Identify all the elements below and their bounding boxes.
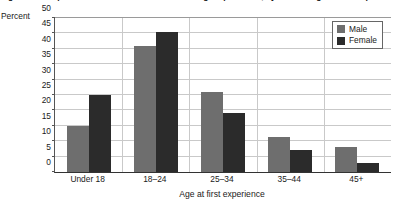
y-axis-tick-label: 45 <box>42 18 51 28</box>
legend-label: Male <box>349 25 367 33</box>
y-axis-tick-label: 30 <box>42 65 51 75</box>
x-axis-tick-label: Under 18 <box>54 174 121 184</box>
y-axis-tick-mark <box>52 48 55 49</box>
x-axis-tick-label: 35–44 <box>256 174 323 184</box>
bar-chart: Age at first experience of sexual interc… <box>0 0 402 203</box>
legend-swatch-icon <box>337 25 345 33</box>
y-axis-tick-mark <box>52 171 55 172</box>
y-axis-tick-mark <box>52 140 55 141</box>
legend: MaleFemale <box>332 21 383 49</box>
y-axis-tick-mark <box>52 109 55 110</box>
y-axis-tick-label: 10 <box>42 126 51 136</box>
y-axis-tick-label: 5 <box>46 142 51 152</box>
x-axis-title: Age at first experience <box>54 189 390 199</box>
y-axis-tick-mark <box>52 32 55 33</box>
y-axis-tick-label: 40 <box>42 34 51 44</box>
y-axis-tick-mark <box>52 94 55 95</box>
y-axis-tick-mark <box>52 17 55 18</box>
y-axis-tick-label: 50 <box>42 3 51 13</box>
x-axis-tick-label: 45+ <box>323 174 390 184</box>
y-axis-tick-label: 0 <box>46 157 51 167</box>
y-axis-tick-mark <box>52 79 55 80</box>
chart-title: Age at first experience of sexual interc… <box>2 0 400 3</box>
y-axis-tick-label: 15 <box>42 111 51 121</box>
y-axis-tick-mark <box>52 156 55 157</box>
x-axis-tick-label: 25–34 <box>188 174 255 184</box>
y-axis-tick-label: 20 <box>42 95 51 105</box>
legend-swatch-icon <box>337 37 345 45</box>
legend-item: Female <box>337 36 377 44</box>
y-axis-tick-label: 35 <box>42 49 51 59</box>
y-axis-tick-label: 25 <box>42 80 51 90</box>
y-axis-tick-mark <box>52 125 55 126</box>
x-axis-tick-label: 18–24 <box>121 174 188 184</box>
y-axis-tick-mark <box>52 63 55 64</box>
legend-label: Female <box>349 36 377 44</box>
legend-item: Male <box>337 25 377 33</box>
x-axis-tick-labels: Under 1818–2425–3435–4445+ <box>54 174 390 184</box>
y-axis-title: Percent <box>1 11 30 21</box>
